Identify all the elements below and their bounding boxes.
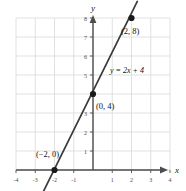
x-tick-label-minus3: -3 xyxy=(33,177,38,183)
point-label-0-4: (0, 4) xyxy=(96,101,115,111)
equation-annotation: y = 2x + 4 xyxy=(109,66,144,75)
y-tick-label-2: 2 xyxy=(84,130,87,136)
data-point-2-8 xyxy=(128,15,134,21)
x-tick-label-2: 2 xyxy=(130,177,133,183)
y-axis-label: y xyxy=(90,3,95,13)
y-tick-label-6: 6 xyxy=(84,54,87,60)
x-tick-label-1: 1 xyxy=(111,177,114,183)
y-tick-label-5: 5 xyxy=(84,73,87,79)
y-tick-label-3: 3 xyxy=(84,111,87,117)
x-tick-label-minus2: -2 xyxy=(52,177,57,183)
x-axis-label: x xyxy=(174,165,179,175)
point-label-minus2-0: (−2, 0) xyxy=(36,149,59,159)
data-point-minus2-0 xyxy=(51,167,57,173)
coordinate-plane-svg: -4 -3 -2 -1 1 2 3 4 1 2 3 5 6 7 8 x y (−… xyxy=(0,0,186,191)
x-tick-label-minus1: -1 xyxy=(71,177,76,183)
x-tick-label-3: 3 xyxy=(149,177,152,183)
x-tick-label-4: 4 xyxy=(169,177,172,183)
y-tick-label-7: 7 xyxy=(84,35,87,41)
x-tick-label-minus4: -4 xyxy=(14,177,19,183)
data-point-0-4 xyxy=(90,91,96,97)
point-label-2-8: (2, 8) xyxy=(121,26,140,36)
y-tick-label-8: 8 xyxy=(84,16,87,22)
graph-figure: -4 -3 -2 -1 1 2 3 4 1 2 3 5 6 7 8 x y (−… xyxy=(0,0,186,191)
y-tick-label-1: 1 xyxy=(84,149,87,155)
